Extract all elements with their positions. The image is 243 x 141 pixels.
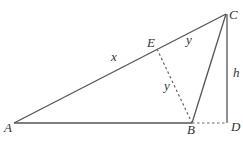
point-label-a: A — [3, 120, 12, 135]
geometry-diagram: A B C D E x y y h — [0, 0, 243, 141]
segment-bc — [192, 14, 226, 123]
segment-label-ae: x — [110, 49, 117, 64]
segment-label-eb: y — [162, 78, 170, 93]
point-label-b: B — [187, 122, 195, 137]
point-label-e: E — [146, 35, 155, 50]
segment-label-ec: y — [184, 32, 192, 47]
segment-label-cd: h — [233, 65, 240, 80]
point-label-c: C — [229, 7, 238, 22]
segment-ac — [14, 14, 226, 123]
segment-eb-dashed — [157, 49, 192, 123]
point-label-d: D — [230, 119, 241, 134]
